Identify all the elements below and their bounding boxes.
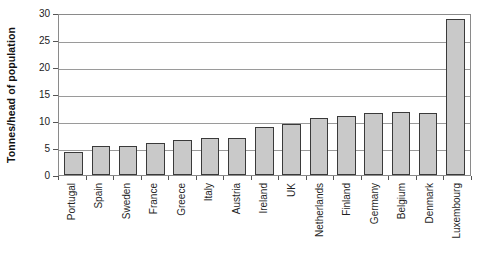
x-tick-mark	[113, 176, 114, 180]
x-tick-mark	[278, 176, 279, 180]
x-tick-mark	[86, 176, 87, 180]
x-category-label: France	[149, 183, 159, 214]
y-axis-tick-labels: 302520151050	[24, 14, 50, 176]
x-category-label: UK	[287, 183, 297, 197]
bar-slot	[360, 15, 387, 175]
x-category-label: Italy	[204, 183, 214, 201]
bar-chart: Tonnes/head of population 302520151050 P…	[0, 0, 482, 257]
x-label-slot: Luxembourg	[443, 181, 471, 255]
bar[interactable]	[282, 124, 301, 175]
x-category-label: Portugal	[67, 183, 77, 220]
bar[interactable]	[64, 152, 83, 175]
bar-slot	[442, 15, 469, 175]
x-label-slot: Italy	[196, 181, 224, 255]
bar-slot	[278, 15, 305, 175]
bar-slot	[387, 15, 414, 175]
bar[interactable]	[201, 138, 220, 175]
y-tick-label: 20	[24, 63, 50, 73]
x-label-slot: Sweden	[113, 181, 141, 255]
bar[interactable]	[364, 113, 383, 175]
x-tick-mark	[416, 176, 417, 180]
bar-slot	[60, 15, 87, 175]
bar[interactable]	[92, 146, 111, 175]
x-category-label: Finland	[342, 183, 352, 216]
y-tick-label: 25	[24, 36, 50, 46]
bar[interactable]	[392, 112, 411, 175]
bar-slot	[251, 15, 278, 175]
x-category-label: Netherlands	[315, 183, 325, 237]
bar-slot	[333, 15, 360, 175]
y-tick-label: 5	[24, 144, 50, 154]
x-tick-mark	[388, 176, 389, 180]
bar-slot	[305, 15, 332, 175]
x-category-label: Germany	[370, 183, 380, 224]
x-tick-mark	[333, 176, 334, 180]
x-category-label: Greece	[177, 183, 187, 216]
bar-slot	[115, 15, 142, 175]
x-tick-mark	[361, 176, 362, 180]
bar-slot	[224, 15, 251, 175]
bar-slot	[142, 15, 169, 175]
x-label-slot: Portugal	[58, 181, 86, 255]
y-tick-label: 0	[24, 171, 50, 181]
bars-container	[59, 15, 470, 175]
x-label-slot: UK	[278, 181, 306, 255]
bar-slot	[414, 15, 441, 175]
bar[interactable]	[419, 113, 438, 175]
x-label-slot: Netherlands	[306, 181, 334, 255]
bar-slot	[196, 15, 223, 175]
y-tick-label: 30	[24, 9, 50, 19]
bar[interactable]	[173, 140, 192, 175]
bar[interactable]	[310, 118, 329, 175]
x-tick-mark	[168, 176, 169, 180]
y-tick-label: 10	[24, 117, 50, 127]
x-axis-tick-marks	[58, 176, 471, 180]
x-label-slot: France	[141, 181, 169, 255]
x-label-slot: Belgium	[388, 181, 416, 255]
x-category-label: Ireland	[259, 183, 269, 214]
x-tick-mark	[306, 176, 307, 180]
x-axis-category-labels: PortugalSpainSwedenFranceGreeceItalyAust…	[58, 181, 471, 255]
y-axis-title-label: Tonnes/head of population	[5, 27, 17, 163]
x-category-label: Denmark	[425, 183, 435, 224]
x-tick-mark	[196, 176, 197, 180]
bar-slot	[169, 15, 196, 175]
y-axis-title: Tonnes/head of population	[0, 0, 22, 190]
y-tick-mark	[53, 95, 58, 96]
y-tick-mark	[53, 68, 58, 69]
x-label-slot: Germany	[361, 181, 389, 255]
bar[interactable]	[446, 19, 465, 175]
y-tick-mark	[53, 14, 58, 15]
bar[interactable]	[228, 138, 247, 175]
y-tick-mark	[53, 122, 58, 123]
bar[interactable]	[337, 116, 356, 175]
x-label-slot: Spain	[86, 181, 114, 255]
x-category-label: Luxembourg	[452, 183, 462, 239]
x-label-slot: Finland	[333, 181, 361, 255]
y-tick-label: 15	[24, 90, 50, 100]
x-tick-mark	[251, 176, 252, 180]
y-tick-mark	[53, 176, 58, 177]
x-category-label: Belgium	[397, 183, 407, 219]
bar-slot	[87, 15, 114, 175]
plot-area	[58, 14, 471, 176]
y-tick-mark	[53, 149, 58, 150]
x-category-label: Sweden	[122, 183, 132, 219]
x-tick-mark	[141, 176, 142, 180]
x-tick-mark	[223, 176, 224, 180]
x-category-label: Austria	[232, 183, 242, 214]
x-category-label: Spain	[94, 183, 104, 209]
x-tick-mark	[471, 176, 472, 180]
x-label-slot: Austria	[223, 181, 251, 255]
x-label-slot: Greece	[168, 181, 196, 255]
bar[interactable]	[255, 127, 274, 175]
y-tick-mark	[53, 41, 58, 42]
bar[interactable]	[119, 146, 138, 175]
x-label-slot: Ireland	[251, 181, 279, 255]
x-tick-mark	[58, 176, 59, 180]
bar[interactable]	[146, 143, 165, 175]
x-tick-mark	[443, 176, 444, 180]
x-label-slot: Denmark	[416, 181, 444, 255]
